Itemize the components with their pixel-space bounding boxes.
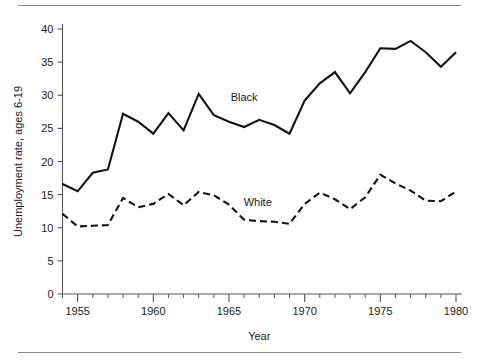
y-axis-tick-label: 35: [41, 56, 53, 68]
line-chart-plot: 0510152025303540195519601965197019751980…: [0, 0, 479, 362]
y-axis-tick-label: 40: [41, 23, 53, 35]
y-axis-title: Unemployment rate, ages 6-19: [12, 86, 24, 237]
x-axis-tick-label: 1975: [368, 305, 392, 317]
series-label-white: White: [244, 196, 272, 208]
series-label-black: Black: [231, 91, 258, 103]
y-axis-tick-label: 10: [41, 222, 53, 234]
x-axis-tick-label: 1965: [217, 305, 241, 317]
x-axis-tick-label: 1955: [65, 305, 89, 317]
x-axis-title: Year: [248, 330, 271, 342]
y-axis-tick-label: 30: [41, 89, 53, 101]
x-axis-tick-label: 1960: [141, 305, 165, 317]
series-line-black: [63, 41, 457, 191]
y-axis-tick-label: 5: [47, 255, 53, 267]
chart-figure: 0510152025303540195519601965197019751980…: [0, 0, 479, 362]
x-axis-tick-label: 1970: [292, 305, 316, 317]
y-axis-tick-label: 25: [41, 122, 53, 134]
y-axis-tick-label: 20: [41, 156, 53, 168]
chart-axes: [58, 24, 463, 302]
y-axis-tick-label: 15: [41, 189, 53, 201]
y-axis-tick-label: 0: [47, 288, 53, 300]
x-axis-tick-label: 1980: [444, 305, 468, 317]
